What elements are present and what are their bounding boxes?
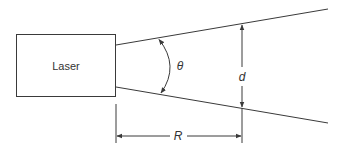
laser-label: Laser — [52, 60, 80, 72]
diameter-label: d — [239, 70, 246, 84]
beam-upper-edge — [116, 9, 328, 45]
beam-lower-edge — [116, 87, 328, 123]
range-label: R — [174, 129, 183, 143]
angle-arc — [159, 40, 170, 94]
laser-box: Laser — [17, 35, 116, 97]
laser-divergence-diagram: Laser θ d R — [0, 0, 343, 149]
angle-label: θ — [177, 59, 184, 73]
